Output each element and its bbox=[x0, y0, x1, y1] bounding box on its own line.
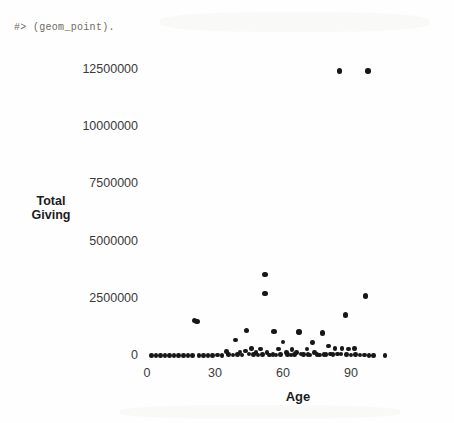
scatter-point bbox=[365, 68, 370, 73]
scatter-point bbox=[249, 346, 254, 351]
scatter-point bbox=[352, 346, 357, 351]
y-tick-label: 2500000 bbox=[0, 291, 138, 305]
scatter-point bbox=[337, 68, 342, 73]
scatter-point bbox=[220, 353, 225, 358]
y-tick-label: 7500000 bbox=[0, 176, 138, 190]
x-tick-label: 90 bbox=[331, 366, 371, 380]
scatter-point bbox=[301, 352, 306, 357]
scatter-point bbox=[363, 293, 368, 298]
y-tick-label: 0 bbox=[0, 348, 138, 362]
scatter-point bbox=[271, 329, 276, 334]
scatter-point bbox=[240, 353, 245, 358]
y-axis-title: TotalGiving bbox=[18, 194, 84, 222]
scatter-point bbox=[333, 346, 338, 351]
scatter-point bbox=[383, 353, 388, 358]
scatter-point bbox=[343, 312, 348, 317]
scatter-point bbox=[310, 340, 315, 345]
x-tick-label: 30 bbox=[195, 366, 235, 380]
scatter-point bbox=[194, 319, 199, 324]
scatter-point bbox=[258, 347, 263, 352]
scatter-point bbox=[181, 353, 186, 358]
scatter-point bbox=[308, 353, 313, 358]
x-tick-label: 60 bbox=[263, 366, 303, 380]
scatter-point bbox=[340, 346, 345, 351]
scatter-point bbox=[233, 338, 238, 343]
y-tick-label: 10000000 bbox=[0, 119, 138, 133]
scatter-point bbox=[339, 352, 344, 357]
scatter-point bbox=[346, 347, 351, 352]
scatter-point bbox=[215, 353, 220, 358]
scatter-point bbox=[278, 352, 283, 357]
scatter-point bbox=[190, 353, 195, 358]
scatter-point bbox=[305, 347, 310, 352]
scatter-point bbox=[371, 353, 376, 358]
y-tick-label: 12500000 bbox=[0, 62, 138, 76]
scatter-point bbox=[296, 329, 301, 334]
scatter-point bbox=[262, 291, 267, 296]
scatter-point bbox=[320, 330, 325, 335]
scatter-point bbox=[276, 347, 281, 352]
scatter-point bbox=[292, 352, 297, 357]
scatter-point bbox=[326, 344, 331, 349]
y-tick-label: 5000000 bbox=[0, 234, 138, 248]
scatter-point bbox=[244, 328, 249, 333]
x-axis-title: Age bbox=[0, 389, 454, 404]
x-tick-label: 0 bbox=[127, 366, 167, 380]
scatter-point bbox=[262, 272, 267, 277]
scatter-point bbox=[260, 352, 265, 357]
scatter-point bbox=[317, 353, 322, 358]
scatter-plot-page: #> (geom_point). 02500000500000075000001… bbox=[0, 0, 454, 423]
scatter-point bbox=[281, 340, 286, 345]
